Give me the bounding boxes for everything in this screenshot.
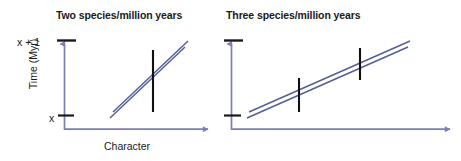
right-panel-axes [224,41,450,131]
left-panel-axes [57,41,208,131]
right-lineage-band [247,41,410,118]
left-lineage-band [110,41,188,118]
right-species-bars [299,48,360,112]
left-lineage-line-upper [113,41,188,112]
figure-container: Two species/million years Time (Myr) x +… [0,0,461,161]
left-lineage-line-lower [110,47,185,118]
plot-graphics [0,0,461,161]
right-lineage-line-lower [247,47,408,118]
right-lineage-line-upper [249,41,410,112]
